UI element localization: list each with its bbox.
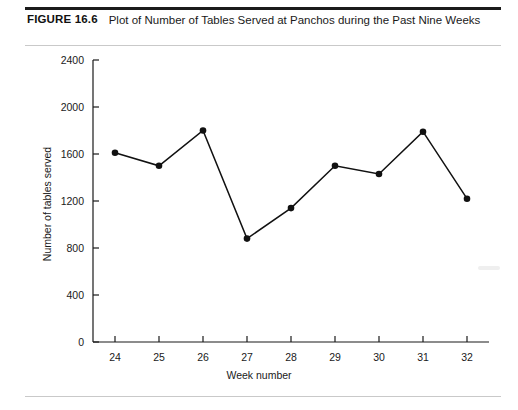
data-point — [112, 150, 119, 157]
plot-area: 04008001200160020002400 2425262728293031… — [0, 0, 518, 410]
axes — [93, 60, 489, 342]
y-tick-label: 0 — [78, 336, 84, 348]
x-tick-label: 24 — [109, 351, 121, 363]
footer-rule — [25, 396, 501, 397]
data-line — [115, 131, 467, 239]
y-tick-label: 2000 — [61, 101, 85, 113]
data-point-markers — [112, 127, 471, 242]
data-point — [332, 163, 339, 170]
y-axis-label: Number of tables served — [41, 119, 53, 289]
x-tick-label: 32 — [461, 351, 473, 363]
y-tick-label: 400 — [66, 289, 84, 301]
x-tick-label: 30 — [373, 351, 385, 363]
y-tick-label: 1200 — [61, 195, 85, 207]
data-point — [464, 195, 471, 202]
x-axis-label: Week number — [0, 369, 518, 381]
x-tick-label: 31 — [417, 351, 429, 363]
x-tick-label: 25 — [153, 351, 165, 363]
x-tick-label: 29 — [329, 351, 341, 363]
data-point — [376, 171, 383, 178]
data-point — [156, 163, 163, 170]
x-tick-label: 28 — [285, 351, 297, 363]
figure-container: FIGURE 16.6 Plot of Number of Tables Ser… — [0, 0, 518, 410]
x-axis-ticks: 242526272829303132 — [109, 336, 473, 363]
data-point — [288, 205, 295, 212]
y-tick-label: 1600 — [61, 148, 85, 160]
scan-artifact — [478, 266, 500, 270]
data-point — [200, 127, 207, 134]
y-tick-label: 800 — [66, 242, 84, 254]
x-tick-label: 27 — [241, 351, 253, 363]
x-tick-label: 26 — [197, 351, 209, 363]
data-point — [244, 235, 251, 242]
data-point — [420, 128, 427, 135]
y-tick-label: 2400 — [61, 54, 85, 66]
line-chart: 04008001200160020002400 2425262728293031… — [0, 0, 518, 410]
